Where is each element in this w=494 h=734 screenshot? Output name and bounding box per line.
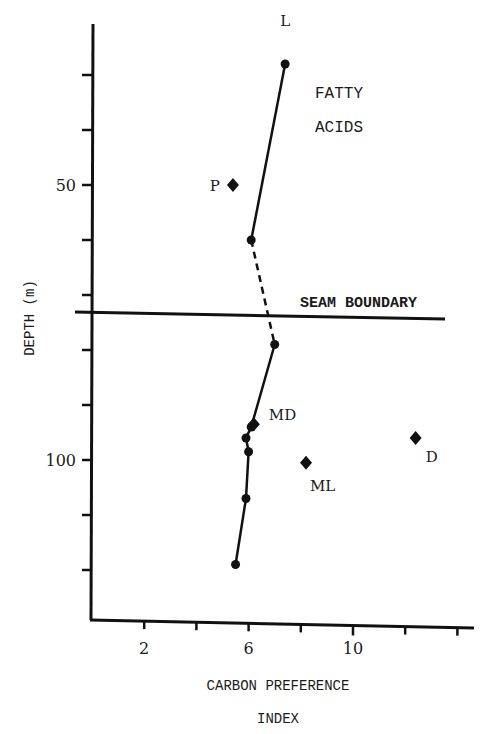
x-tick-label: 6 xyxy=(244,639,254,658)
x-axis-label-line-1: CARBON PREFERENCE xyxy=(207,678,350,694)
point-label-d: D xyxy=(426,448,438,466)
data-point-diamond xyxy=(227,178,239,192)
x-axis-label-line-2: INDEX xyxy=(257,711,300,727)
data-point-circle xyxy=(231,560,240,569)
y-tick-label: 100 xyxy=(45,451,76,470)
data-point-diamond xyxy=(410,431,422,445)
data-point-circle xyxy=(281,60,290,69)
data-point-circle xyxy=(247,236,256,245)
seam-boundary-line xyxy=(75,312,445,319)
profile-line xyxy=(251,64,285,240)
y-axis xyxy=(91,24,93,620)
seam-boundary-label: SEAM BOUNDARY xyxy=(300,295,417,312)
chart-title-line-2: ACIDS xyxy=(315,119,363,137)
y-tick-label: 50 xyxy=(56,176,76,195)
point-label-ml: ML xyxy=(310,477,335,495)
y-axis-label: DEPTH (m) xyxy=(22,280,38,356)
data-point-circle xyxy=(241,434,250,443)
data-point-diamond xyxy=(300,456,312,470)
profile-line xyxy=(236,345,275,565)
x-tick-label: 2 xyxy=(139,639,149,658)
y-axis-tick-labels: 50100 xyxy=(45,176,76,470)
data-point-circle xyxy=(244,447,253,456)
point-label-p: P xyxy=(210,177,220,195)
x-axis xyxy=(90,620,474,628)
dashed-connector-line xyxy=(251,240,274,345)
point-label-l: L xyxy=(280,12,290,30)
axes xyxy=(90,24,474,628)
data-point-circle xyxy=(241,494,250,503)
cpi-depth-chart: 50100 2610 SEAM BOUNDARY LPMDMLD FATTY A… xyxy=(0,0,494,734)
x-tick-label: 10 xyxy=(343,639,363,658)
x-axis-tick-labels: 2610 xyxy=(139,639,363,658)
point-label-md: MD xyxy=(269,406,296,424)
data-point-circle xyxy=(270,340,279,349)
chart-title-line-1: FATTY xyxy=(315,85,363,103)
